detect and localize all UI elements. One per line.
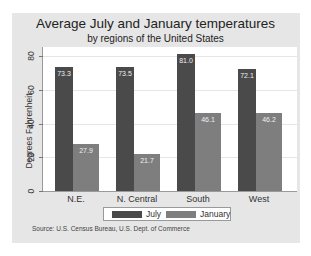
bar-july-2: 81.0 xyxy=(177,54,195,191)
bar-july-3: 72.1 xyxy=(238,69,256,191)
plot-area: 73.327.973.521.781.046.172.146.2 xyxy=(42,47,297,192)
y-tick-label: 40 xyxy=(24,117,38,131)
bar-july-1: 73.5 xyxy=(116,67,134,191)
legend-label-july: July xyxy=(146,209,161,219)
legend: July January xyxy=(103,207,231,221)
y-tick-label: 80 xyxy=(24,49,38,63)
y-tick-label: 0 xyxy=(24,184,38,198)
x-tick-label: N. Central xyxy=(107,194,167,204)
gridline xyxy=(43,90,297,91)
bar-january-2: 46.1 xyxy=(195,113,221,191)
legend-swatch-january xyxy=(166,211,196,218)
x-tick-label: N.E. xyxy=(46,194,106,204)
gridline xyxy=(43,56,297,57)
x-tick-label: West xyxy=(229,194,289,204)
bar-value-label: 27.9 xyxy=(73,147,99,154)
legend-swatch-july xyxy=(112,211,142,218)
y-tick xyxy=(39,56,43,57)
y-tick xyxy=(39,191,43,192)
chart-title: Average July and January temperatures xyxy=(0,16,311,31)
bar-value-label: 46.1 xyxy=(195,116,221,123)
bar-value-label: 72.1 xyxy=(238,72,256,79)
bar-value-label: 46.2 xyxy=(256,116,282,123)
bar-january-0: 27.9 xyxy=(73,144,99,191)
y-tick-label: 20 xyxy=(24,150,38,164)
bar-value-label: 81.0 xyxy=(177,57,195,64)
y-tick-label: 60 xyxy=(24,83,38,97)
bar-july-0: 73.3 xyxy=(55,67,73,191)
bar-january-3: 46.2 xyxy=(256,113,282,191)
bar-value-label: 21.7 xyxy=(134,157,160,164)
y-tick xyxy=(39,157,43,158)
bar-january-1: 21.7 xyxy=(134,154,160,191)
y-tick xyxy=(39,124,43,125)
legend-label-january: January xyxy=(200,209,230,219)
chart-subtitle: by regions of the United States xyxy=(0,33,311,44)
source-note: Source: U.S. Census Bureau, U.S. Dept. o… xyxy=(32,225,190,232)
bar-value-label: 73.3 xyxy=(55,70,73,77)
y-tick xyxy=(39,90,43,91)
bar-value-label: 73.5 xyxy=(116,70,134,77)
x-tick-label: South xyxy=(168,194,228,204)
